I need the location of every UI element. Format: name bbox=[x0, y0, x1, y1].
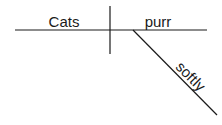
verb-word: purr bbox=[145, 13, 172, 30]
subject-word: Cats bbox=[49, 13, 80, 30]
modifier-line bbox=[133, 30, 217, 115]
sentence-diagram: Cats purr softly bbox=[0, 0, 222, 125]
